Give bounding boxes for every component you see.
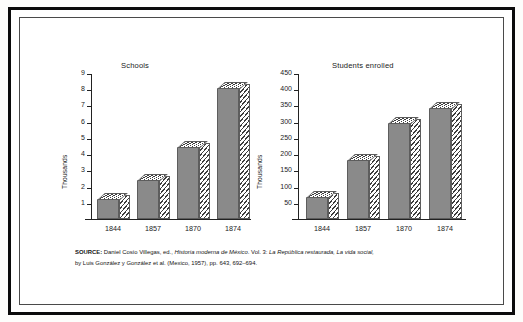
bar-side-face [369,156,380,219]
bar-front-face [306,197,328,219]
x-tick-label: 1874 [428,224,462,233]
bar-side-face [451,104,462,219]
bar-front-face [217,88,239,219]
chart-students-enrolled: Students enrolled Thousands 184418571870… [254,61,474,241]
bar-front-face [429,108,451,219]
x-tick-label: 1857 [346,224,380,233]
y-tick-mark [294,155,299,156]
y-tick-label: 3 [81,166,85,173]
y-tick-mark [87,171,92,172]
y-tick-label: 450 [280,69,292,76]
y-tick-label: 2 [81,183,85,190]
bar [429,101,462,219]
chart-students-title: Students enrolled [332,61,394,70]
chart-schools: Schools Thousands 1844185718701874 12345… [59,61,259,241]
bar-side-face [199,143,210,219]
x-tick-label: 1844 [96,224,130,233]
y-tick-mark [294,171,299,172]
figure-content: Schools Thousands 1844185718701874 12345… [19,17,504,305]
y-tick-label: 4 [81,150,85,157]
bar [388,116,421,219]
y-tick-mark [294,204,299,205]
y-tick-mark [294,106,299,107]
y-tick-label: 6 [81,118,85,125]
y-tick-mark [87,188,92,189]
y-axis-line [91,74,92,220]
y-tick-label: 5 [81,134,85,141]
x-tick-label: 1870 [176,224,210,233]
bar [137,173,170,219]
y-tick-label: 400 [280,85,292,92]
source-text-1: Daniel Cosío Villegas, ed., [102,249,174,255]
bar-front-face [177,147,199,219]
y-tick-mark [87,123,92,124]
bar [347,153,380,219]
y-axis-line [298,74,299,220]
x-tick-label: 1844 [305,224,339,233]
source-title-italic-2: La República restaurada, La vida social, [269,249,374,255]
chart-schools-y-axis-label: Thousands [61,155,68,189]
bar [97,192,130,219]
y-tick-label: 250 [280,134,292,141]
y-tick-mark [294,74,299,75]
x-tick-label: 1857 [136,224,170,233]
y-tick-mark [294,123,299,124]
source-text-2: . Vol. 3: [248,249,269,255]
y-tick-mark [87,106,92,107]
y-tick-mark [294,188,299,189]
y-tick-mark [87,139,92,140]
chart-schools-title: Schools [121,61,149,70]
y-tick-label: 9 [81,69,85,76]
y-tick-label: 50 [284,199,292,206]
y-tick-mark [294,139,299,140]
chart-students-x-tick-labels: 1844185718701874 [298,220,466,236]
source-label: SOURCE: [75,249,102,255]
y-tick-label: 300 [280,118,292,125]
source-text-3: by Luis González y González et al. (Mexi… [75,260,257,266]
y-tick-label: 8 [81,85,85,92]
y-tick-label: 350 [280,101,292,108]
bar-side-face [410,119,421,219]
y-tick-mark [87,90,92,91]
y-tick-label: 200 [280,150,292,157]
x-tick-label: 1870 [387,224,421,233]
chart-students-plot-area: 1844185718701874 50100150200250300350400… [298,74,466,220]
y-tick-mark [87,155,92,156]
bar [306,190,339,219]
y-tick-label: 100 [280,183,292,190]
y-tick-mark [87,204,92,205]
x-tick-label: 1874 [216,224,250,233]
y-tick-label: 7 [81,101,85,108]
source-title-italic-1: Historia moderna de México [174,249,247,255]
bar-front-face [388,123,410,219]
bar [217,81,250,219]
y-tick-mark [294,90,299,91]
chart-schools-x-tick-labels: 1844185718701874 [91,220,251,236]
figure-page: Schools Thousands 1844185718701874 12345… [0,0,523,322]
y-tick-label: 150 [280,166,292,173]
bar-front-face [97,199,119,219]
chart-schools-plot-area: 1844185718701874 123456789 [91,74,251,220]
y-tick-label: 1 [81,199,85,206]
y-tick-mark [87,74,92,75]
source-note: SOURCE: Daniel Cosío Villegas, ed., Hist… [75,247,475,268]
bar-front-face [347,160,369,219]
bar-side-face [159,176,170,219]
bar-front-face [137,180,159,219]
bar-side-face [239,84,250,219]
bar [177,140,210,219]
chart-students-y-axis-label: Thousands [256,155,263,189]
